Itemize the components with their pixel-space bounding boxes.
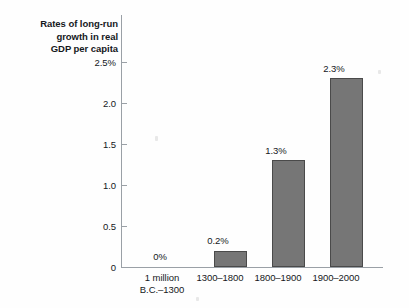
bar-1300-1800[interactable]: [214, 251, 247, 267]
bar-1800-1900[interactable]: [272, 160, 305, 267]
bar-label-1-million-bc-1300: 0%: [134, 252, 186, 262]
y-tick-label-2: 1.0: [26, 181, 116, 191]
chart-title-line-1: Rates of long-run: [40, 18, 118, 29]
scan-artifact: [155, 136, 158, 141]
bar-label-1900-2000: 2.3%: [304, 64, 364, 74]
y-tick-label-4: 2.0: [26, 99, 116, 109]
x-axis-label-line-1: 1 million: [145, 272, 179, 283]
x-axis-line: [121, 267, 383, 268]
chart-title-line-2: growth in real: [56, 31, 118, 42]
chart-title: Rates of long-run growth in real GDP per…: [10, 18, 118, 56]
x-axis-label-1900-2000: 1900–2000: [300, 272, 372, 284]
scan-artifact: [196, 297, 199, 301]
plot-area: [122, 62, 383, 267]
y-tick-mark-0: [122, 267, 127, 268]
y-tick-label-0: 0: [26, 263, 116, 273]
bar-label-1300-1800: 0.2%: [188, 236, 248, 246]
x-axis-label-line-1: 1800–1900: [254, 272, 301, 283]
x-axis-label-line-2: B.C.–1300: [126, 284, 198, 296]
scan-artifact: [378, 70, 381, 74]
chart-figure: Rates of long-run growth in real GDP per…: [0, 0, 409, 308]
x-axis-label-line-1: 1300–1800: [196, 272, 243, 283]
chart-title-line-3: GDP per capita: [51, 43, 118, 54]
x-axis-label-line-1: 1900–2000: [312, 272, 359, 283]
bar-label-1800-1900: 1.3%: [246, 146, 306, 156]
y-tick-label-3: 1.5: [26, 140, 116, 150]
y-tick-label-5: 2.5%: [26, 58, 116, 68]
bar-1900-2000[interactable]: [330, 78, 363, 267]
y-tick-label-1: 0.5: [26, 222, 116, 232]
